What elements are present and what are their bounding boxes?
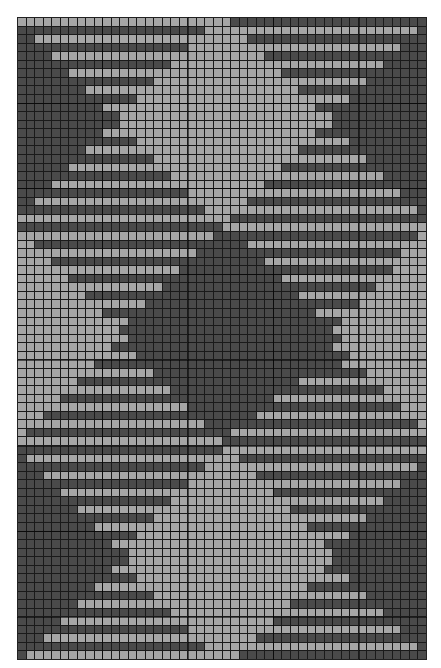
grid-cell bbox=[410, 181, 418, 189]
grid-cell bbox=[154, 566, 162, 574]
grid-cell bbox=[78, 164, 86, 172]
grid-cell bbox=[129, 429, 137, 437]
grid-cell bbox=[163, 429, 171, 437]
grid-cell bbox=[333, 403, 341, 411]
grid-cell bbox=[35, 386, 43, 394]
grid-cell bbox=[154, 61, 162, 69]
grid-cell bbox=[146, 189, 154, 197]
grid-cell bbox=[197, 634, 205, 642]
grid-cell bbox=[316, 574, 324, 582]
grid-cell bbox=[359, 232, 367, 240]
grid-cell bbox=[308, 549, 316, 557]
grid-cell bbox=[180, 164, 188, 172]
grid-cell bbox=[205, 61, 213, 69]
grid-cell bbox=[188, 574, 196, 582]
grid-cell bbox=[205, 540, 213, 548]
grid-cell bbox=[69, 592, 77, 600]
grid-cell bbox=[52, 352, 60, 360]
grid-cell bbox=[316, 463, 324, 471]
grid-cell bbox=[129, 592, 137, 600]
grid-cell bbox=[112, 249, 120, 257]
grid-cell bbox=[274, 643, 282, 651]
grid-cell bbox=[410, 506, 418, 514]
grid-cell bbox=[61, 52, 69, 60]
grid-cell bbox=[359, 574, 367, 582]
grid-cell bbox=[282, 181, 290, 189]
grid-cell bbox=[367, 523, 375, 531]
grid-cell bbox=[418, 78, 426, 86]
grid-cell bbox=[69, 129, 77, 137]
grid-cell bbox=[367, 369, 375, 377]
grid-cell bbox=[180, 446, 188, 454]
grid-cell bbox=[325, 78, 333, 86]
grid-cell bbox=[146, 455, 154, 463]
grid-cell bbox=[52, 129, 60, 137]
grid-cell bbox=[163, 189, 171, 197]
grid-cell bbox=[52, 241, 60, 249]
grid-cell bbox=[180, 455, 188, 463]
grid-cell bbox=[384, 609, 392, 617]
grid-cell bbox=[248, 463, 256, 471]
grid-cell bbox=[197, 292, 205, 300]
grid-cell bbox=[112, 318, 120, 326]
grid-cell bbox=[291, 78, 299, 86]
grid-cell bbox=[350, 309, 358, 317]
grid-cell bbox=[418, 275, 426, 283]
grid-cell bbox=[95, 472, 103, 480]
grid-cell bbox=[282, 420, 290, 428]
grid-cell bbox=[376, 129, 384, 137]
grid-cell bbox=[44, 52, 52, 60]
grid-cell bbox=[27, 112, 35, 120]
grid-cell bbox=[274, 651, 282, 659]
grid-cell bbox=[401, 326, 409, 334]
grid-cell bbox=[282, 189, 290, 197]
grid-cell bbox=[163, 378, 171, 386]
grid-cell bbox=[240, 523, 248, 531]
grid-cell bbox=[120, 266, 128, 274]
grid-cell bbox=[231, 318, 239, 326]
grid-cell bbox=[163, 626, 171, 634]
grid-cell bbox=[180, 326, 188, 334]
grid-cell bbox=[316, 343, 324, 351]
grid-cell bbox=[86, 480, 94, 488]
grid-cell bbox=[410, 155, 418, 163]
grid-cell bbox=[163, 472, 171, 480]
grid-cell bbox=[171, 104, 179, 112]
grid-cell bbox=[282, 138, 290, 146]
grid-cell bbox=[35, 275, 43, 283]
grid-cell bbox=[350, 480, 358, 488]
grid-cell bbox=[384, 455, 392, 463]
grid-cell bbox=[316, 27, 324, 35]
grid-cell bbox=[205, 403, 213, 411]
grid-cell bbox=[18, 164, 26, 172]
grid-cell bbox=[78, 44, 86, 52]
grid-cell bbox=[69, 343, 77, 351]
grid-cell bbox=[401, 395, 409, 403]
grid-cell bbox=[240, 506, 248, 514]
grid-cell bbox=[240, 617, 248, 625]
grid-cell bbox=[180, 172, 188, 180]
grid-cell bbox=[171, 232, 179, 240]
grid-cell bbox=[410, 609, 418, 617]
grid-cell bbox=[154, 69, 162, 77]
grid-cell bbox=[384, 292, 392, 300]
grid-cell bbox=[342, 463, 350, 471]
grid-cell bbox=[95, 164, 103, 172]
grid-cell bbox=[248, 283, 256, 291]
grid-cell bbox=[291, 155, 299, 163]
grid-cell bbox=[359, 592, 367, 600]
grid-cell bbox=[342, 557, 350, 565]
grid-cell bbox=[223, 198, 231, 206]
grid-cell bbox=[291, 181, 299, 189]
grid-cell bbox=[103, 275, 111, 283]
grid-cell bbox=[163, 206, 171, 214]
grid-cell bbox=[95, 266, 103, 274]
grid-cell bbox=[359, 27, 367, 35]
grid-cell bbox=[418, 44, 426, 52]
grid-cell bbox=[308, 258, 316, 266]
grid-cell bbox=[282, 540, 290, 548]
grid-cell bbox=[418, 437, 426, 445]
grid-cell bbox=[188, 446, 196, 454]
grid-cell bbox=[129, 18, 137, 26]
grid-cell bbox=[231, 112, 239, 120]
